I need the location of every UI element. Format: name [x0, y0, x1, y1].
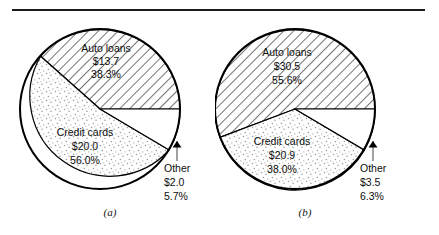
pie-a-label-auto-loans-name: Auto loans — [81, 42, 131, 54]
pie-a-label-auto-loans-percent: 38.3% — [91, 68, 121, 80]
pie-a-label-credit-cards-percent: 56.0% — [70, 154, 100, 166]
pie-b-label-other-percent: 6.3% — [360, 190, 384, 202]
pie-b-label-other-value: $3.5 — [360, 176, 381, 188]
pie-chart-a-caption: (a) — [90, 206, 130, 218]
pie-b-label-auto-loans-name: Auto loans — [262, 46, 312, 58]
figure-pie-charts: Auto loans $13.7 38.3% Credit cards $20.… — [0, 0, 439, 235]
pie-chart-a: Auto loans $13.7 38.3% Credit cards $20.… — [0, 0, 219, 235]
pie-b-label-auto-loans-value: $30.5 — [274, 60, 300, 72]
pie-a-label-credit-cards-value: $20.0 — [72, 140, 98, 152]
pie-b-label-credit-cards-value: $20.9 — [269, 149, 295, 161]
pie-a-label-other-value: $2.0 — [164, 176, 185, 188]
pie-b-other-callout-leader — [369, 141, 378, 161]
pie-chart-b-svg: Auto loans $30.5 55.6% Credit cards $20.… — [215, 0, 439, 210]
pie-a-other-callout-leader — [173, 141, 182, 161]
pie-a-label-other-name: Other — [164, 162, 191, 174]
pie-chart-b-caption: (b) — [285, 206, 325, 218]
pie-a-label-other-percent: 5.7% — [164, 190, 188, 202]
pie-b-label-auto-loans-percent: 55.6% — [272, 74, 302, 86]
pie-chart-b: Auto loans $30.5 55.6% Credit cards $20.… — [215, 0, 434, 235]
pie-b-label-credit-cards-name: Credit cards — [254, 135, 311, 147]
pie-a-label-credit-cards-name: Credit cards — [57, 126, 114, 138]
pie-a-label-auto-loans-value: $13.7 — [93, 55, 119, 67]
pie-b-label-credit-cards-percent: 38.0% — [267, 163, 297, 175]
pie-chart-a-svg: Auto loans $13.7 38.3% Credit cards $20.… — [0, 0, 219, 210]
pie-b-label-other-name: Other — [360, 162, 387, 174]
